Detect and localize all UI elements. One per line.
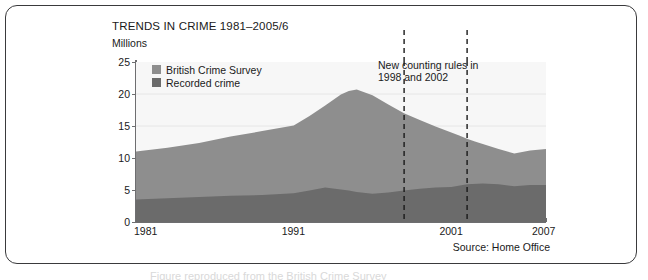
y-tick-label-15: 15 xyxy=(108,120,130,132)
source-note: Source: Home Office xyxy=(453,241,550,253)
legend-swatch-recorded xyxy=(152,78,161,87)
y-tick-mark-0 xyxy=(132,222,136,223)
legend-item-bcs: British Crime Survey xyxy=(152,64,262,75)
y-tick-mark-25 xyxy=(132,62,136,63)
chart-legend: British Crime Survey Recorded crime xyxy=(152,64,262,90)
x-tick-mark-2007 xyxy=(546,218,547,222)
legend-item-recorded: Recorded crime xyxy=(152,77,262,88)
y-tick-mark-5 xyxy=(132,190,136,191)
clipped-caption: Figure reproduced from the British Crime… xyxy=(150,270,648,280)
x-tick-label-2001: 2001 xyxy=(439,225,462,237)
x-tick-label-1981: 1981 xyxy=(134,225,157,237)
legend-swatch-bcs xyxy=(152,65,161,74)
legend-label-recorded: Recorded crime xyxy=(166,77,240,89)
annotation-line-1: New counting rules in xyxy=(378,60,478,72)
y-tick-label-10: 10 xyxy=(108,152,130,164)
y-tick-mark-20 xyxy=(132,94,136,95)
y-tick-label-0: 0 xyxy=(108,216,130,228)
annotation-line-2: 1998 and 2002 xyxy=(378,72,478,84)
counting-rules-annotation: New counting rules in 1998 and 2002 xyxy=(378,60,478,83)
y-tick-mark-10 xyxy=(132,158,136,159)
y-tick-label-5: 5 xyxy=(108,184,130,196)
y-tick-label-20: 20 xyxy=(108,88,130,100)
legend-label-bcs: British Crime Survey xyxy=(166,64,262,76)
counting-rule-markers-upper xyxy=(136,30,546,64)
y-tick-label-25: 25 xyxy=(108,56,130,68)
chart-figure: TRENDS IN CRIME 1981–2005/6 Millions 25 … xyxy=(108,16,556,264)
x-tick-label-1991: 1991 xyxy=(282,225,305,237)
x-tick-label-2007: 2007 xyxy=(532,225,555,237)
y-tick-mark-15 xyxy=(132,126,136,127)
figure-root: TRENDS IN CRIME 1981–2005/6 Millions 25 … xyxy=(0,0,648,280)
